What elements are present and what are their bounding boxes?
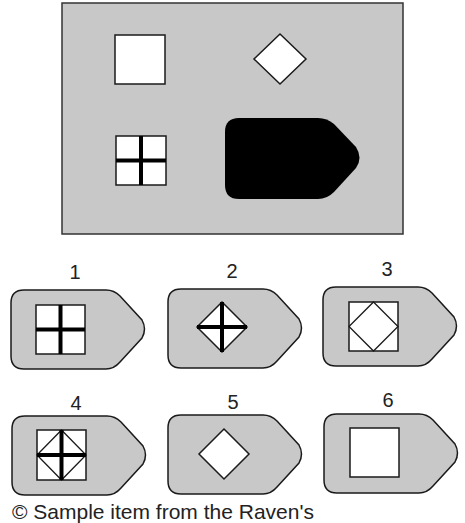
- option-label-2: 2: [217, 261, 247, 281]
- option-6[interactable]: [323, 413, 461, 495]
- option-3[interactable]: [322, 286, 460, 368]
- option-2[interactable]: [167, 288, 305, 370]
- square-figure: [115, 35, 165, 84]
- square-with-cross-figure: [116, 136, 166, 185]
- caption: © Sample item from the Raven's: [12, 501, 314, 523]
- option-label-3: 3: [372, 259, 402, 279]
- option-1[interactable]: [10, 289, 148, 371]
- option-4[interactable]: [11, 415, 149, 497]
- option-label-1: 1: [60, 262, 90, 282]
- option-label-6: 6: [373, 390, 403, 410]
- option-label-5: 5: [218, 392, 248, 412]
- option-5[interactable]: [167, 414, 305, 496]
- puzzle-matrix-panel: [61, 2, 404, 235]
- option-label-4: 4: [61, 393, 91, 413]
